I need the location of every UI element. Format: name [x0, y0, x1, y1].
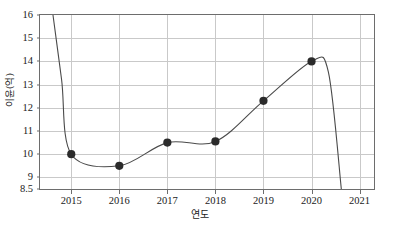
y-tick-label: 8.5 — [20, 184, 33, 195]
y-tick-label: 15 — [23, 33, 34, 44]
x-axis-title: 연도 — [0, 206, 399, 221]
x-tick-mark — [71, 190, 72, 194]
x-tick-label: 2019 — [253, 196, 274, 207]
y-tick-label: 16 — [23, 10, 34, 21]
x-tick-label: 2018 — [205, 196, 226, 207]
x-tick-label: 2015 — [61, 196, 82, 207]
data-point-marker — [163, 139, 171, 147]
x-tick-mark — [167, 190, 168, 194]
line-chart-figure: 8.5910111213141516 이윤(억) 201520162017201… — [0, 0, 399, 235]
plot-area — [39, 14, 375, 190]
y-tick-label: 9 — [28, 172, 33, 183]
data-point-marker — [259, 97, 267, 105]
x-tick-mark — [119, 190, 120, 194]
data-point-marker — [67, 150, 75, 158]
y-tick-label: 12 — [23, 103, 34, 114]
x-tick-label: 2017 — [157, 196, 178, 207]
x-tick-mark — [360, 190, 361, 194]
y-tick-label: 11 — [23, 126, 33, 137]
data-point-marker — [115, 162, 123, 170]
y-axis-title: 이윤(억) — [2, 53, 16, 127]
y-tick-label: 14 — [23, 56, 34, 67]
data-point-marker — [307, 57, 315, 65]
data-point-markers — [67, 57, 315, 170]
data-curve-layer — [40, 15, 374, 189]
data-curve — [53, 15, 341, 189]
x-tick-label: 2016 — [109, 196, 130, 207]
data-point-marker — [211, 137, 219, 145]
x-tick-mark — [215, 190, 216, 194]
x-tick-label: 2020 — [301, 196, 322, 207]
y-tick-label: 13 — [23, 79, 34, 90]
x-tick-mark — [263, 190, 264, 194]
x-tick-mark — [312, 190, 313, 194]
x-tick-label: 2021 — [349, 196, 370, 207]
y-tick-label: 10 — [23, 149, 34, 160]
